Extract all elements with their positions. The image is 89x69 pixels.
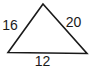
triangle-diagram: 16 20 12 [0,0,89,69]
right-side-label: 20 [66,14,82,30]
left-side-label: 16 [2,17,18,33]
bottom-side-label: 12 [35,53,51,69]
